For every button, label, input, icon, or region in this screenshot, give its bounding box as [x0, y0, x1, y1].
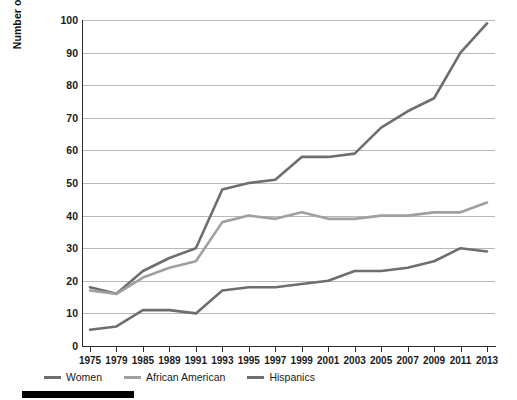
gridline — [82, 20, 495, 21]
x-tick — [196, 347, 197, 352]
x-tick — [302, 347, 303, 352]
y-tick-label: 60 — [54, 144, 78, 156]
y-tick-label: 70 — [54, 112, 78, 124]
x-tick — [381, 347, 382, 352]
x-tick-label: 2005 — [370, 355, 392, 366]
gridline — [82, 216, 495, 217]
x-tick — [116, 347, 117, 352]
legend-label: Hispanics — [269, 371, 315, 383]
x-tick — [355, 347, 356, 352]
gridline — [82, 118, 495, 119]
x-tick — [487, 347, 488, 352]
x-tick-label: 1993 — [211, 355, 233, 366]
legend-swatch-icon — [124, 376, 141, 379]
x-tick-label: 1975 — [79, 355, 101, 366]
x-tick — [434, 347, 435, 352]
legend-swatch-icon — [44, 376, 61, 379]
x-tick-label: 1997 — [264, 355, 286, 366]
x-tick — [143, 347, 144, 352]
chart-legend: WomenAfrican AmericanHispanics — [44, 369, 337, 385]
x-tick — [275, 347, 276, 352]
x-tick-label: 1979 — [105, 355, 127, 366]
y-tick-label: 0 — [54, 340, 78, 352]
y-tick-label: 80 — [54, 79, 78, 91]
y-axis-tick-labels: 0102030405060708090100 — [50, 0, 78, 400]
legend-label: African American — [146, 371, 225, 383]
gridline — [82, 281, 495, 282]
x-tick — [222, 347, 223, 352]
y-axis-title: Number of Women, African Americans, and … — [2, 0, 46, 62]
y-tick-label: 30 — [54, 242, 78, 254]
legend-swatch-icon — [247, 376, 264, 379]
x-tick-label: 1991 — [185, 355, 207, 366]
plot-area — [82, 20, 495, 346]
footer-bar — [22, 391, 134, 398]
x-tick-label: 2011 — [450, 355, 472, 366]
y-tick-label: 50 — [54, 177, 78, 189]
y-tick-label: 10 — [54, 307, 78, 319]
chart-figure: Number of Women, African Americans, and … — [0, 0, 517, 400]
x-tick — [328, 347, 329, 352]
gridline — [82, 183, 495, 184]
x-tick-label: 1999 — [291, 355, 313, 366]
x-tick — [408, 347, 409, 352]
legend-item[interactable]: Hispanics — [247, 371, 315, 383]
x-tick — [249, 347, 250, 352]
gridline — [82, 313, 495, 314]
x-tick-label: 1989 — [158, 355, 180, 366]
x-tick — [461, 347, 462, 352]
gridline — [82, 85, 495, 86]
y-tick-label: 90 — [54, 47, 78, 59]
gridline — [82, 150, 495, 151]
x-tick-label: 1995 — [238, 355, 260, 366]
legend-label: Women — [66, 371, 102, 383]
x-tick-label: 2001 — [317, 355, 339, 366]
gridline — [82, 53, 495, 54]
x-tick-label: 2009 — [423, 355, 445, 366]
y-tick-label: 20 — [54, 275, 78, 287]
y-tick-label: 100 — [54, 14, 78, 26]
x-tick-label: 2013 — [476, 355, 498, 366]
x-tick-label: 2007 — [396, 355, 418, 366]
x-tick — [90, 347, 91, 352]
x-tick-label: 1985 — [132, 355, 154, 366]
x-tick-label: 2003 — [344, 355, 366, 366]
legend-item[interactable]: African American — [124, 371, 225, 383]
y-tick-label: 40 — [54, 210, 78, 222]
gridline — [82, 248, 495, 249]
x-tick — [169, 347, 170, 352]
legend-item[interactable]: Women — [44, 371, 102, 383]
y-axis-line — [82, 20, 83, 347]
